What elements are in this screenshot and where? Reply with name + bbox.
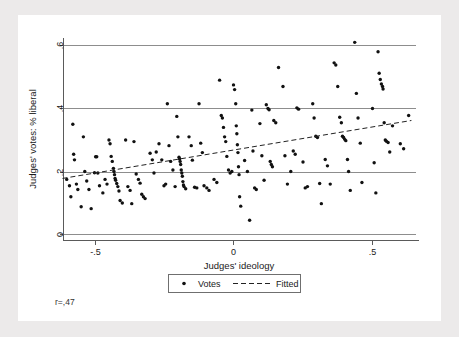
data-point	[180, 168, 183, 171]
y-tick-label-0.6: .6	[55, 42, 65, 50]
data-point	[115, 182, 118, 185]
data-point	[117, 189, 120, 192]
data-point	[386, 141, 389, 144]
data-point	[73, 158, 76, 161]
data-point	[379, 78, 382, 81]
figure-canvas: .6 .4 .2 0 -.5 0 .5 Judges' ideology Jud…	[18, 15, 441, 321]
data-point	[197, 102, 200, 105]
data-point	[175, 115, 178, 118]
data-point	[236, 143, 239, 146]
data-point	[190, 144, 193, 147]
data-point	[225, 155, 228, 158]
data-point	[130, 202, 133, 205]
data-point	[187, 135, 190, 138]
legend: Votes Fitted	[169, 275, 301, 293]
y-tick-label-0.2: .2	[55, 169, 65, 177]
data-point	[116, 185, 119, 188]
data-point	[124, 138, 127, 141]
data-point	[346, 158, 349, 161]
data-point	[286, 182, 289, 185]
data-point	[399, 142, 402, 145]
data-point	[234, 102, 237, 105]
data-point	[306, 185, 309, 188]
data-point	[230, 170, 233, 173]
data-point	[160, 158, 163, 161]
data-point	[98, 184, 101, 187]
data-point	[164, 182, 167, 185]
data-point	[271, 165, 274, 168]
data-point	[138, 181, 141, 184]
data-point	[181, 175, 184, 178]
data-point	[388, 150, 391, 153]
data-point	[301, 160, 304, 163]
x-tick-label-0: 0	[231, 247, 236, 257]
data-point	[402, 147, 405, 150]
data-point	[87, 188, 90, 191]
data-point	[312, 116, 315, 119]
data-point	[218, 78, 221, 81]
data-point	[407, 114, 410, 117]
data-point	[111, 160, 114, 163]
axes	[64, 38, 419, 241]
data-point	[360, 181, 363, 184]
data-point	[113, 173, 116, 176]
data-point	[320, 202, 323, 205]
legend-marker-votes	[182, 282, 186, 286]
data-point	[114, 179, 117, 182]
data-point	[95, 155, 98, 158]
data-point	[235, 132, 238, 135]
data-point	[222, 126, 225, 129]
data-point	[135, 172, 138, 175]
data-point	[255, 188, 258, 191]
data-point	[283, 154, 286, 157]
fitted-regression-line	[63, 120, 412, 178]
data-point	[101, 191, 104, 194]
data-point	[250, 108, 253, 111]
data-point	[326, 164, 329, 167]
data-point	[121, 201, 124, 204]
data-point	[235, 124, 238, 127]
data-point	[166, 102, 169, 105]
scatter-points-layer	[65, 41, 410, 222]
data-point	[265, 103, 268, 106]
data-point	[355, 92, 358, 95]
data-point	[391, 124, 394, 127]
data-point	[148, 152, 151, 155]
x-axis-title: Judges' ideology	[204, 260, 275, 271]
data-point	[334, 63, 337, 66]
data-point	[109, 155, 112, 158]
data-point	[340, 121, 343, 124]
data-point	[167, 144, 170, 147]
data-point	[152, 171, 155, 174]
data-point	[89, 207, 92, 210]
data-point	[237, 165, 240, 168]
data-point	[267, 108, 270, 111]
data-point	[199, 141, 202, 144]
data-point	[212, 178, 215, 181]
data-point	[344, 139, 347, 142]
data-point	[105, 182, 108, 185]
data-point	[376, 50, 379, 53]
data-point	[176, 135, 179, 138]
data-point	[243, 159, 246, 162]
data-point	[181, 180, 184, 183]
data-point	[338, 116, 341, 119]
data-point	[137, 178, 140, 181]
data-point	[349, 189, 352, 192]
y-axis-title: Judges' votes: % liberal	[27, 89, 38, 189]
data-point	[239, 204, 242, 207]
data-point	[151, 158, 154, 161]
data-point	[269, 160, 272, 163]
legend-label-votes: Votes	[198, 279, 221, 289]
data-point	[372, 161, 375, 164]
data-point	[82, 135, 85, 138]
data-point	[178, 160, 181, 163]
data-point	[202, 184, 205, 187]
data-point	[75, 182, 78, 185]
data-point	[233, 88, 236, 91]
x-tick-label--0.5: -.5	[90, 247, 101, 257]
data-point	[232, 83, 235, 86]
data-point	[179, 163, 182, 166]
data-point	[236, 151, 239, 154]
data-point	[143, 197, 146, 200]
